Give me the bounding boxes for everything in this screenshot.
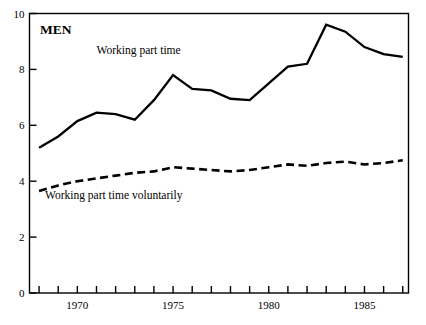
y-axis-tick-label: 0 bbox=[19, 287, 25, 299]
x-axis-tick-label: 1985 bbox=[353, 299, 376, 311]
x-axis-tick-label: 1970 bbox=[66, 299, 89, 311]
series-annotation-working-part-time: Working part time bbox=[97, 44, 181, 57]
y-axis-tick-labels: 0246810 bbox=[14, 8, 26, 300]
y-axis-tick-label: 10 bbox=[14, 8, 26, 20]
y-axis-tick-label: 4 bbox=[19, 175, 25, 187]
x-axis-tick-label: 1980 bbox=[258, 299, 281, 311]
x-axis-tick-labels: 1970197519801985 bbox=[66, 299, 376, 311]
y-axis-tick-label: 8 bbox=[19, 63, 25, 75]
y-axis-tick-label: 2 bbox=[19, 231, 25, 243]
x-axis-tick-label: 1975 bbox=[162, 299, 185, 311]
plot-frame bbox=[30, 14, 409, 294]
series-annotation-working-part-time-voluntarily: Working part time voluntarily bbox=[45, 189, 183, 202]
panel-title: MEN bbox=[40, 22, 72, 37]
y-axis-tick-label: 6 bbox=[19, 119, 25, 131]
line-chart: 0246810 1970197519801985 MEN Working par… bbox=[0, 0, 426, 325]
chart-figure: 0246810 1970197519801985 MEN Working par… bbox=[0, 0, 426, 325]
